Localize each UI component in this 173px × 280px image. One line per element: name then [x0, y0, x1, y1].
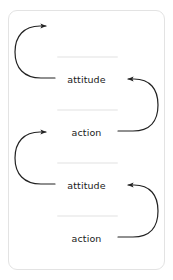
row-rule: [57, 56, 118, 58]
row-label: action: [72, 127, 102, 138]
row-action-1: action: [40, 123, 133, 141]
row-rule: [57, 162, 118, 164]
row-rule: [57, 215, 118, 217]
row-label: attitude: [67, 74, 105, 85]
row-label: action: [72, 233, 102, 244]
row-action-2: action: [40, 229, 133, 247]
row-attitude-1: attitude: [40, 70, 133, 88]
row-attitude-2: attitude: [40, 176, 133, 194]
row-label: attitude: [67, 180, 105, 191]
row-rule: [57, 109, 118, 111]
diagram-stage: attitude action attitude action: [0, 0, 173, 280]
